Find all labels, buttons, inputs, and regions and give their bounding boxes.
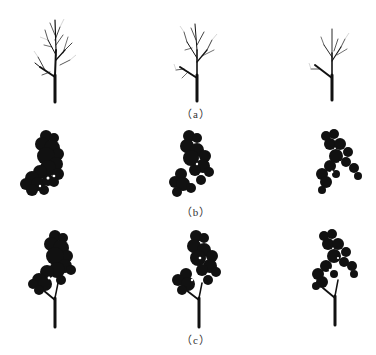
full-tree-1: [25, 228, 80, 328]
tree-model-figure: （a）: [0, 0, 376, 355]
full-tree-2: [170, 228, 225, 328]
label-row-c: （c）: [166, 331, 226, 347]
skeleton-tree-3: [307, 25, 355, 101]
label-row-a: （a）: [166, 105, 226, 121]
skeleton-tree-1: [30, 15, 80, 103]
skeleton-tree-2: [172, 20, 222, 102]
foliage-tree-3: [312, 128, 367, 198]
foliage-tree-1: [18, 128, 73, 198]
foliage-tree-2: [165, 128, 220, 200]
label-row-b: （b）: [166, 203, 226, 219]
full-tree-3: [308, 228, 363, 328]
